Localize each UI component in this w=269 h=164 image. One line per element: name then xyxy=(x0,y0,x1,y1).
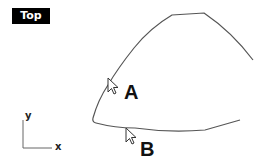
x-axis-label: x xyxy=(55,142,61,152)
point-a-label: A xyxy=(124,82,138,102)
axis-indicator xyxy=(23,120,52,148)
y-axis-label: y xyxy=(25,111,32,121)
point-b-label: B xyxy=(140,139,154,159)
cursor-arrow-icon xyxy=(108,78,118,94)
top-viewport[interactable]: Top A B y x xyxy=(0,0,269,164)
viewport-title[interactable]: Top xyxy=(12,8,50,24)
lower-curve[interactable] xyxy=(93,118,240,131)
cursor-arrow-icon xyxy=(126,128,136,144)
upper-curve[interactable] xyxy=(93,13,253,118)
